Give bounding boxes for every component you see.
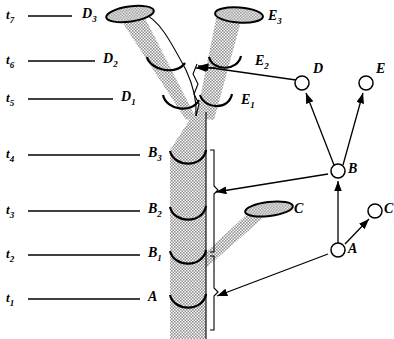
graph-node-A[interactable] <box>331 243 345 257</box>
graph-node-D[interactable] <box>295 76 309 90</box>
segment-braces <box>210 150 218 330</box>
segment-label-B2: B2 <box>148 202 162 219</box>
time-label-t3: t3 <box>6 203 14 220</box>
edge-B-to-D <box>306 93 334 165</box>
graph-node-label-B: B <box>348 162 357 176</box>
diagram-svg <box>0 0 394 339</box>
segment-label-B3: B3 <box>148 146 162 163</box>
arrow-to-A-shoot <box>217 254 328 296</box>
graph-node-label-A: A <box>348 242 357 256</box>
edge-B-to-E <box>343 93 363 165</box>
shoot-label-C: C <box>294 202 303 219</box>
graph-node-C[interactable] <box>368 204 382 218</box>
graph-node-B[interactable] <box>331 164 345 178</box>
brace-B <box>210 150 218 252</box>
segment-label-B1: B1 <box>148 246 162 263</box>
time-label-t1: t1 <box>6 291 14 308</box>
segment-label-D2: D2 <box>103 52 118 69</box>
shoot-label-E2: E2 <box>255 54 269 71</box>
shoot-label-E1: E1 <box>241 93 255 110</box>
segment-label-D3: D3 <box>82 7 97 24</box>
time-label-t5: t5 <box>6 91 14 108</box>
cut-end-D3 <box>105 3 155 25</box>
time-label-t4: t4 <box>6 147 14 164</box>
arrow-to-B-shoot <box>216 174 328 192</box>
time-label-t2: t2 <box>6 247 14 264</box>
segment-label-D1: D1 <box>121 90 136 107</box>
time-axis-rules <box>28 16 140 299</box>
cut-end-C <box>244 199 293 219</box>
time-label-t7: t7 <box>6 8 14 25</box>
time-label-t6: t6 <box>6 53 14 70</box>
brace-A <box>210 256 218 330</box>
graph-node-label-C: C <box>384 202 393 216</box>
segment-label-A: A <box>148 290 157 307</box>
diagram-canvas: t7 t6 t5 t4 t3 t2 t1 D3 D2 D1 B3 B2 B1 A… <box>0 0 394 339</box>
graph-node-E[interactable] <box>359 76 373 90</box>
graph-node-label-D: D <box>313 62 323 76</box>
shoot-label-E3: E3 <box>268 9 282 26</box>
graph-node-label-E: E <box>376 62 385 76</box>
